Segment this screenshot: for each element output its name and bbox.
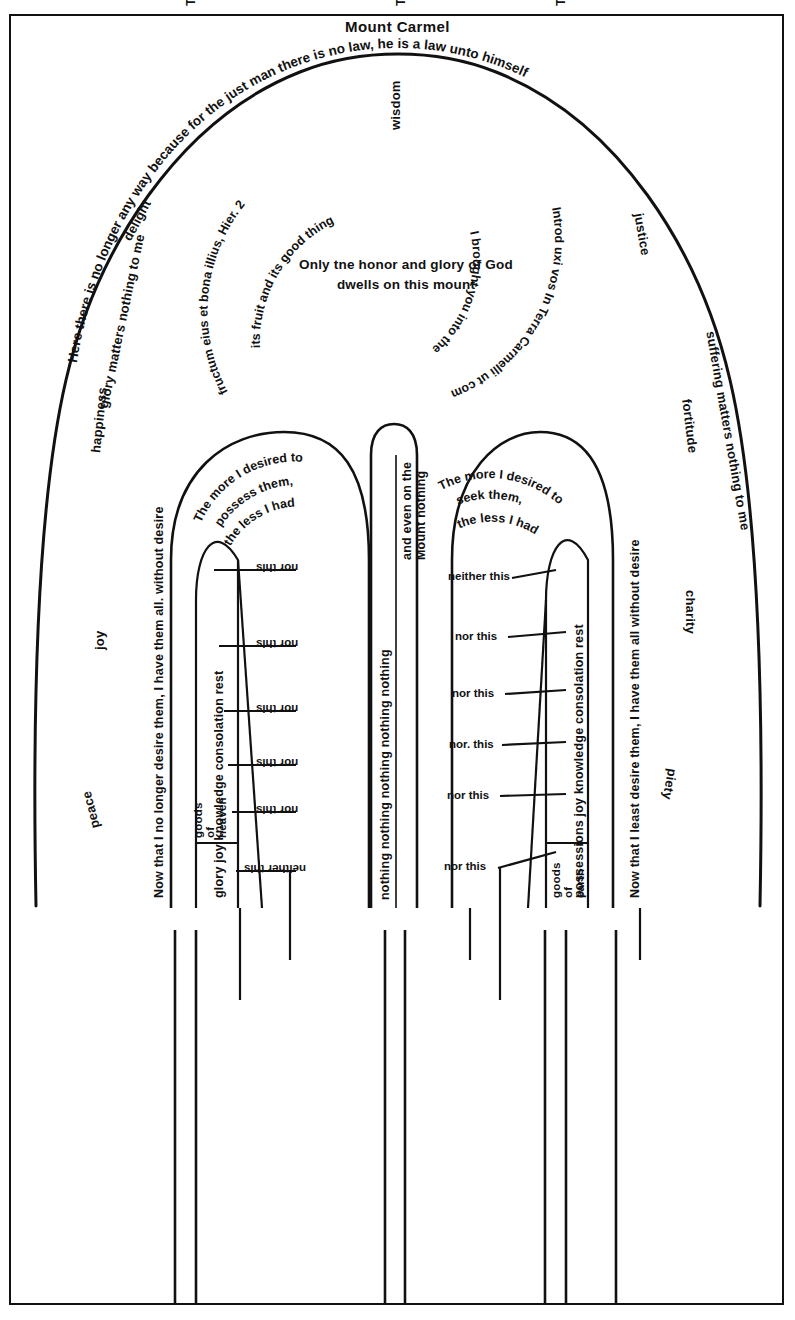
right-rung-1: neither this	[448, 570, 510, 582]
spiral-center-line-1: Only tne honor and glory of God	[281, 255, 531, 275]
left-rung-6: neither this	[244, 863, 306, 875]
panel-3-heading: The way of the imperfect spirit	[552, 0, 570, 6]
left-column-side-statement: Now that I no longer desire them, I have…	[152, 506, 167, 898]
right-column-side-statement: Now that I least desire them, I have the…	[628, 539, 643, 898]
right-rung-4: nor. this	[449, 738, 494, 750]
panel-2-heading: The path of Mount Carmel the perfect spi…	[392, 0, 410, 6]
virtue-charity: charity	[683, 590, 698, 634]
center-mount-line: and even on the Mount nothing	[400, 462, 429, 560]
spiral-center-text: Only tne honor and glory of God dwells o…	[281, 255, 531, 294]
panel-1-heading: The way of the imperfect spirit	[182, 0, 200, 6]
mount-carmel-diagram: Mount Carmel	[0, 0, 795, 1320]
spiral-center-line-2: dwells on this mount	[281, 275, 531, 295]
right-rung-6: nor this	[444, 860, 486, 872]
center-nothing-chain: nothing nothing nothing nothing nothing	[378, 649, 393, 900]
left-goods-list: glory joy knowledge consolation rest	[212, 671, 227, 898]
virtue-joy: joy	[92, 631, 107, 650]
right-rung-3: nor this	[452, 687, 494, 699]
outer-frame	[9, 14, 784, 1305]
page-title: Mount Carmel	[0, 18, 795, 35]
left-rung-2: nor this	[256, 638, 298, 650]
right-rung-2: nor this	[455, 630, 497, 642]
virtue-wisdom: wisdom	[388, 80, 403, 130]
left-rung-1: nor this	[256, 562, 298, 574]
right-goods-list: possessions joy knowledge consolation re…	[572, 624, 587, 898]
left-rung-5: nor this	[256, 804, 298, 816]
right-rung-5: nor this	[447, 789, 489, 801]
left-rung-3: nor this	[256, 703, 298, 715]
left-rung-4: nor this	[256, 757, 298, 769]
